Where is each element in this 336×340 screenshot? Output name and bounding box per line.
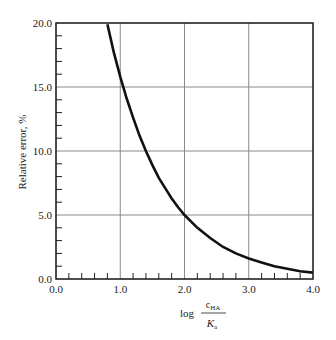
x-tick-label: 1.0 [113,283,127,295]
x-tick-labels: 0.01.02.03.04.0 [49,283,320,295]
x-tick-label: 4.0 [306,283,320,295]
x-axis-label-denominator: Ka [206,317,218,331]
y-tick-labels: 0.05.010.015.020.0 [33,17,53,285]
x-tick-label: 2.0 [178,283,192,295]
minor-ticks [56,36,300,279]
grid-lines [56,23,313,279]
y-tick-label: 10.0 [33,145,53,157]
relative-error-chart: 0.05.010.015.020.0 0.01.02.03.04.0 Relat… [0,0,336,340]
relative-error-curve [107,24,313,272]
x-axis-label-numerator: cHA [206,299,221,312]
y-tick-label: 5.0 [38,209,52,221]
x-axis-label: log cHA Ka [180,299,226,331]
y-tick-label: 15.0 [33,81,53,93]
x-tick-label: 0.0 [49,283,63,295]
y-tick-label: 20.0 [33,17,53,29]
x-tick-label: 3.0 [242,283,256,295]
x-axis-label-log: log [180,307,195,319]
y-axis-label: Relative error, % [16,115,28,190]
